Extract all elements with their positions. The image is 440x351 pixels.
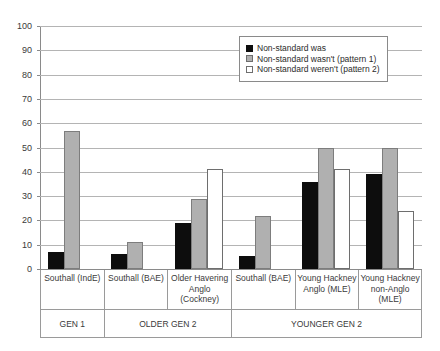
x-axis-category-label: Southall (IndE)	[40, 270, 104, 310]
bar	[191, 199, 207, 269]
y-axis-tick-label: 10	[22, 240, 32, 249]
y-axis-tick-mark	[37, 220, 40, 221]
legend-item-label: Non-standard wasn't (pattern 1)	[257, 55, 376, 64]
x-axis: Southall (IndE)Southall (BAE)Older Haver…	[40, 270, 422, 338]
y-axis-tick-label: 90	[22, 46, 32, 55]
bar-group	[40, 26, 104, 269]
y-axis-tick-label: 40	[22, 167, 32, 176]
bar	[382, 148, 398, 270]
y-axis-tick-label: 0	[27, 265, 32, 274]
bar	[175, 223, 191, 269]
y-axis-tick-mark	[37, 75, 40, 76]
legend-item-label: Non-standard was	[257, 44, 326, 53]
legend-item: Non-standard weren't (pattern 2)	[246, 65, 380, 74]
x-axis-group-label: GEN 1	[40, 310, 104, 338]
bar	[398, 211, 414, 269]
bar	[207, 169, 223, 269]
bar	[366, 174, 382, 269]
bar	[64, 131, 80, 270]
bar-group	[104, 26, 168, 269]
x-axis-group-label: OLDER GEN 2	[104, 310, 231, 338]
y-axis-tick-mark	[37, 245, 40, 246]
bar	[127, 242, 143, 269]
y-axis-tick-mark	[37, 269, 40, 270]
legend-item: Non-standard wasn't (pattern 1)	[246, 55, 380, 64]
y-axis-tick-label: 60	[22, 119, 32, 128]
y-axis-tick-label: 30	[22, 192, 32, 201]
y-axis-tick-mark	[37, 50, 40, 51]
x-axis-group-row: GEN 1OLDER GEN 2YOUNGER GEN 2	[40, 310, 422, 338]
chart-legend: Non-standard wasNon-standard wasn't (pat…	[239, 36, 388, 82]
outlined-white-square-icon	[246, 66, 253, 73]
x-axis-category-label: Southall (BAE)	[231, 270, 295, 310]
bar-group	[167, 26, 231, 269]
x-axis-category-label: Young Hackney non-Anglo (MLE)	[358, 270, 422, 310]
bar	[302, 182, 318, 269]
bar-chart: 1009080706050403020100 Non-standard wasN…	[0, 0, 440, 351]
x-axis-category-label: Older Havering Anglo (Cockney)	[167, 270, 231, 310]
x-axis-category-label: Young Hackney Anglo (MLE)	[295, 270, 359, 310]
y-axis-tick-mark	[37, 172, 40, 173]
y-axis-tick-label: 20	[22, 216, 32, 225]
x-axis-group-label: YOUNGER GEN 2	[231, 310, 422, 338]
y-axis-tick-label: 100	[17, 22, 32, 31]
bar	[239, 256, 255, 269]
legend-item: Non-standard was	[246, 44, 380, 53]
y-axis-tick-mark	[37, 196, 40, 197]
legend-item-label: Non-standard weren't (pattern 2)	[257, 65, 380, 74]
filled-gray-square-icon	[246, 55, 253, 62]
bar	[255, 216, 271, 269]
y-axis-tick-mark	[37, 99, 40, 100]
bar	[318, 148, 334, 270]
y-axis-tick-mark	[37, 26, 40, 27]
y-axis-labels: 1009080706050403020100	[0, 26, 36, 269]
y-axis-tick-mark	[37, 123, 40, 124]
filled-black-square-icon	[246, 45, 253, 52]
x-axis-category-row: Southall (IndE)Southall (BAE)Older Haver…	[40, 270, 422, 310]
y-axis-tick-label: 70	[22, 94, 32, 103]
bar	[111, 254, 127, 269]
bar	[48, 252, 64, 269]
y-axis-tick-mark	[37, 148, 40, 149]
bar	[334, 169, 350, 269]
y-axis-tick-label: 80	[22, 70, 32, 79]
y-axis-tick-label: 50	[22, 143, 32, 152]
x-axis-category-label: Southall (BAE)	[104, 270, 168, 310]
